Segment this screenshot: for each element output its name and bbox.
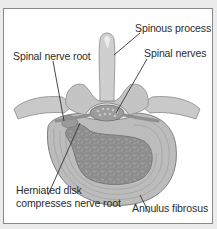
label-herniated-disk: Herniated disk xyxy=(16,184,82,196)
label-herniated-disk-line2: compresses nerve root xyxy=(16,197,121,209)
label-annulus-fibrosus: Annulus fibrosus xyxy=(132,202,208,214)
label-spinal-nerve-root: Spinal nerve root xyxy=(13,50,91,62)
diagram-frame: Spinous process Spinal nerves Spinal ner… xyxy=(3,8,213,224)
label-spinous-process: Spinous process xyxy=(135,22,211,34)
label-spinal-nerves: Spinal nerves xyxy=(144,47,206,59)
